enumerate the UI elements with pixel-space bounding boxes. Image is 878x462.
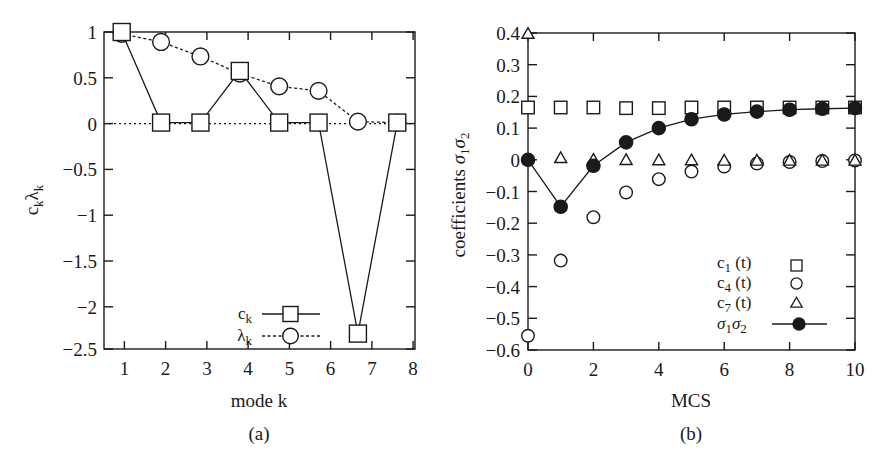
x-tick-label-a: 3 [202,358,212,379]
x-tick-label-b: 4 [654,359,664,380]
data-marker-circle [310,82,327,99]
series-c7 [522,28,861,165]
legend-b-marker-triangle [791,297,802,307]
data-marker-square [271,114,288,131]
data-marker-circle [783,103,796,116]
legend-b-label-c7: c7 (t) [717,293,751,315]
x-tick-label-a: 1 [120,358,130,379]
series-line-ck [122,32,398,334]
y-tick-label-b: 0.1 [496,118,520,139]
x-tick-label-a: 8 [408,358,418,379]
data-marker-circle [750,105,763,118]
x-tick-label-b: 6 [719,359,729,380]
y-tick-label-b: −0.1 [486,182,520,203]
data-marker-triangle [686,154,698,165]
series-c-k [113,24,406,343]
x-tick-label-a: 6 [326,358,336,379]
y-tick-label-b: −0.6 [486,340,520,361]
y-title-a-c: c [21,207,42,215]
data-marker-triangle [653,154,665,165]
y-axis-title-a: ckλk [21,184,46,215]
data-marker-circle [587,159,600,172]
legend-b-label-sigma: σ1σ2 [717,314,747,336]
data-marker-circle [848,102,861,115]
svg-text:coefficients σ1σ2: coefficients σ1σ2 [448,133,472,258]
data-marker-circle [271,78,288,95]
panel-b-svg: 0.40.30.20.10−0.1−0.2−0.3−0.4−0.5−0.6024… [439,0,878,462]
x-tick-label-a: 4 [243,358,253,379]
data-marker-circle [653,173,666,186]
data-marker-circle [587,211,600,224]
figure-container: 1 0.5 0 −0.5 −1 −1.5 −2 [0,0,878,462]
y-tick-label-b: −0.3 [486,245,520,266]
panel-a: 1 0.5 0 −0.5 −1 −1.5 −2 [0,0,439,462]
y-tick-label-a: 1 [88,22,98,43]
data-marker-circle [554,200,567,213]
legend-a-marker-square [283,307,298,322]
panel-a-svg: 1 0.5 0 −0.5 −1 −1.5 −2 [0,0,439,462]
data-marker-triangle [620,154,632,165]
x-tick-label-b: 2 [589,359,599,380]
data-marker-circle [620,186,633,199]
data-marker-square [310,114,327,131]
data-marker-circle [350,113,367,130]
data-marker-square [587,101,600,114]
x-tick-label-b: 8 [785,359,795,380]
series-c4 [522,154,862,342]
panel-b: 0.40.30.20.10−0.1−0.2−0.3−0.4−0.5−0.6024… [439,0,878,462]
y-title-b-word: coefficients [448,169,469,257]
plot-frame-b [528,33,855,350]
data-marker-square [113,24,130,41]
x-tick-label-b: 0 [523,359,533,380]
legend-a[interactable]: ck λk [237,304,320,348]
data-marker-square [192,114,209,131]
x-tick-label-b: 10 [846,359,865,380]
y-title-a-lk-sub: k [31,184,46,191]
panel-caption-b: (b) [680,423,702,445]
legend-b-marker-square [791,260,802,271]
data-marker-circle [522,329,535,342]
x-tick-label-a: 5 [285,358,295,379]
data-marker-square [231,62,248,79]
y-tick-label-b: −0.2 [486,213,520,234]
data-marker-circle [685,165,698,178]
data-marker-square [653,102,666,115]
panel-caption-a: (a) [248,423,269,445]
y-tick-label-a: −2.5 [63,339,97,360]
data-marker-circle [816,102,829,115]
data-marker-circle [652,122,665,135]
x-axis-title-a: mode k [231,390,288,411]
data-marker-triangle [718,155,730,166]
legend-b[interactable]: c1 (t) c4 (t) c7 (t) σ1σ2 [717,253,827,336]
y-tick-label-b: 0 [511,150,521,171]
y-tick-label-a: −0.5 [63,159,97,180]
data-marker-square [349,325,366,342]
x-axis-a: 1 2 3 4 5 6 7 [120,32,418,379]
data-marker-circle [718,108,731,121]
data-marker-circle [521,153,534,166]
y-tick-label-b: −0.5 [486,308,520,329]
y-axis-title-b: coefficients σ1σ2 [448,133,472,258]
legend-a-label-ck: ck [238,304,253,326]
data-marker-square [554,101,567,114]
data-marker-circle [192,48,209,65]
axes-b: 0.40.30.20.10−0.1−0.2−0.3−0.4−0.5−0.6024… [486,23,865,380]
data-marker-circle [620,136,633,149]
legend-b-label-c4: c4 (t) [717,273,751,295]
y-tick-label-b: 0.3 [496,55,520,76]
legend-b-marker-circle [791,278,802,289]
data-marker-circle [153,34,170,51]
data-marker-circle [554,254,567,267]
data-marker-square [620,102,633,115]
y-tick-label-a: 0 [88,114,98,135]
y-tick-label-b: −0.4 [486,277,521,298]
svg-text:ckλk: ckλk [21,184,46,215]
y-title-b-sigma2-sub: 2 [457,133,472,140]
data-marker-triangle [555,152,567,163]
x-tick-label-a: 7 [367,358,377,379]
data-marker-circle [685,113,698,126]
y-tick-label-b: 0.2 [496,86,520,107]
data-marker-square [389,114,406,131]
x-tick-label-a: 2 [161,358,171,379]
legend-a-label-lambdak: λk [237,326,252,348]
